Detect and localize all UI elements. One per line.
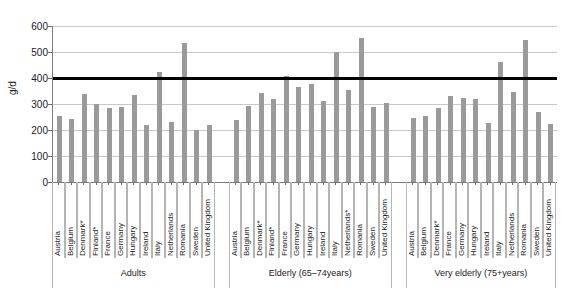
x-axis-tick-mark [310,182,311,185]
x-axis-label-text: Sweden [368,227,377,256]
bar [94,104,99,182]
group-label-text: Very elderly (75+years) [435,268,528,278]
x-axis-label-cell: Ireland [140,182,153,258]
x-axis-label-text: Germany [116,223,125,256]
bar [511,92,516,182]
x-axis-label-text: Austria [230,231,239,256]
bar [486,123,491,182]
y-axis-tick-mark [48,104,52,105]
x-axis-label-text: France [444,231,453,256]
x-axis-tick-mark [285,182,286,185]
x-axis-tick-mark [475,182,476,185]
x-axis-labels: AustriaBelgiumDenmark*Finland*FranceGerm… [52,182,556,258]
bar [384,103,389,182]
reference-line [53,77,557,80]
x-axis-label-cell: Italy [152,182,165,258]
x-axis-label-cell: Germany [115,182,128,258]
bar [194,130,199,182]
bar [234,120,239,182]
x-axis-tick-mark [412,182,413,185]
x-axis-label-cell: Netherlands* [342,182,355,258]
x-axis-tick-mark [248,182,249,185]
bar [69,119,74,182]
x-axis-label-text: Ireland [482,232,491,256]
x-axis-label-text: Belgium [419,227,428,256]
x-axis-tick-mark [512,182,513,185]
x-axis-label-text: Germany [457,223,466,256]
y-axis-ticks: 6005004003002001000 [18,0,48,301]
group-label-cell: Adults [52,258,215,288]
x-axis-label-text: Belgium [242,227,251,256]
bar [144,125,149,182]
y-axis-tick-label: 300 [20,99,48,110]
x-axis-tick-mark [158,182,159,185]
plot-area [52,26,556,182]
x-axis-label-cell: Hungary [304,182,317,258]
x-axis-tick-mark [196,182,197,185]
x-axis-label-text: Belgium [66,227,75,256]
x-axis-tick-mark [146,182,147,185]
x-axis-label-text: Hungary [469,226,478,256]
x-axis-label-text: Hungary [305,226,314,256]
bar [271,99,276,182]
x-axis-tick-mark [373,182,374,185]
bar [309,84,314,182]
bar [436,108,441,182]
x-axis-label-cell: Romania [354,182,367,258]
y-axis-tick-label: 200 [20,125,48,136]
x-axis-label-text: Italy [153,241,162,256]
x-axis-tick-mark [537,182,538,185]
y-axis-title: g/d [7,81,18,95]
x-axis-tick-mark [273,182,274,185]
bar [334,52,339,182]
x-axis-label-cell: Romania [518,182,531,258]
x-axis-tick-mark [550,182,551,185]
x-axis-tick-mark [108,182,109,185]
y-axis-tick-mark [48,52,52,53]
bar [182,43,187,182]
x-axis-label-cell: Denmark* [254,182,267,258]
x-axis-tick-mark [260,182,261,185]
y-axis-tick-mark [48,130,52,131]
x-axis-label-cell: United Kingdom [379,182,392,258]
x-axis-label-text: United Kingdom [203,199,212,256]
x-axis-label-text: Romania [355,224,364,256]
x-axis-tick-mark [208,182,209,185]
x-axis-label-text: Romania [519,224,528,256]
x-axis-label-text: Austria [53,231,62,256]
x-axis-tick-mark [121,182,122,185]
x-axis-label-text: Denmark* [432,220,441,256]
x-axis-label-cell: Ireland [481,182,494,258]
y-axis-tick-label: 400 [20,73,48,84]
bar-chart: g/d 6005004003002001000 AustriaBelgiumDe… [0,0,565,301]
x-axis-label-text: Austria [407,231,416,256]
bar [523,40,528,182]
gridline [53,104,557,105]
y-axis-tick-label: 600 [20,21,48,32]
x-axis-label-text: Netherlands* [343,210,352,256]
x-axis-tick-mark [525,182,526,185]
x-axis-tick-mark [462,182,463,185]
bar [296,87,301,182]
x-axis-label-cell: Italy [493,182,506,258]
x-axis-tick-mark [450,182,451,185]
x-axis-label-cell: Denmark* [431,182,444,258]
x-axis-label-text: Ireland [318,232,327,256]
gridline [53,156,557,157]
x-axis-label-text: Sweden [532,227,541,256]
x-axis-label-text: Netherlands [507,213,516,256]
x-axis-label-cell: United Kingdom [543,182,556,258]
x-axis-label-text: Finland* [91,227,100,256]
bar [119,107,124,182]
bar [423,116,428,182]
x-axis-label-text: Italy [494,241,503,256]
x-axis-label-text: Germany [292,223,301,256]
x-axis-label-text: Denmark* [78,220,87,256]
x-axis-tick-mark [437,182,438,185]
gridline [53,26,557,27]
x-axis-label-text: Finland* [267,227,276,256]
bar [548,124,553,183]
x-axis-tick-mark [133,182,134,185]
x-axis-label-text: France [280,231,289,256]
group-label-text: Adults [121,268,146,278]
